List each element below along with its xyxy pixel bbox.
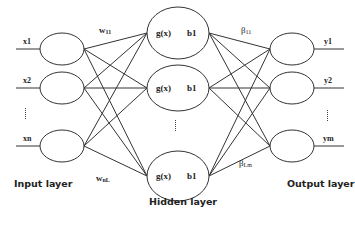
output-node-m xyxy=(270,130,314,162)
output-ellipsis-dots xyxy=(327,110,329,121)
hidden-node-2-bias: b1 xyxy=(187,84,197,93)
weight-label-w11: w11 xyxy=(99,26,111,35)
input-label-x1: x1 xyxy=(23,38,31,46)
hidden-layer-title: Hidden layer xyxy=(149,197,217,207)
hidden-output-connections xyxy=(209,33,270,176)
hidden-node-L-bias: b1 xyxy=(187,172,197,181)
weight-label-wnL: wnL xyxy=(96,174,110,183)
hidden-node-1-activation: g(x) xyxy=(156,29,171,38)
output-label-y1: y1 xyxy=(324,38,332,46)
output-layer-title: Output layer xyxy=(287,179,355,189)
weight-label-beta11: β11 xyxy=(241,26,251,35)
input-node-n xyxy=(40,130,84,162)
output-label-ym: ym xyxy=(323,135,334,143)
output-label-y2: y2 xyxy=(324,77,332,85)
hidden-node-1-bias: b1 xyxy=(187,29,197,38)
hidden-node-2-activation: g(x) xyxy=(156,84,171,93)
hidden-ellipsis-dots xyxy=(175,120,177,131)
input-layer-title: Input layer xyxy=(14,179,72,189)
output-node-2 xyxy=(270,72,314,104)
input-ellipsis-dots xyxy=(25,108,27,119)
weight-label-betaLm: βLm xyxy=(239,159,252,168)
input-node-2 xyxy=(40,72,84,104)
input-node-1 xyxy=(40,33,84,65)
input-label-xn: xn xyxy=(23,135,31,143)
hidden-node-L-activation: g(x) xyxy=(156,172,171,181)
input-label-x2: x2 xyxy=(23,77,31,85)
input-hidden-connections xyxy=(84,33,147,176)
output-node-1 xyxy=(270,33,314,65)
